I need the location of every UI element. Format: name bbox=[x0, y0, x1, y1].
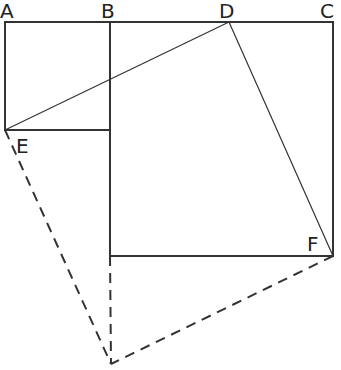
label-F: F bbox=[307, 232, 319, 256]
segment-DF bbox=[229, 22, 333, 256]
geometry-diagram: A B D C E F bbox=[0, 0, 341, 370]
segment-ED bbox=[5, 22, 229, 130]
label-D: D bbox=[219, 0, 234, 23]
small-square bbox=[5, 22, 110, 130]
large-square bbox=[110, 22, 333, 256]
dashed-segment-F-bottom bbox=[111, 256, 333, 364]
dashed-segment-vertical bbox=[110, 256, 111, 364]
label-E: E bbox=[16, 134, 29, 158]
label-B: B bbox=[101, 0, 115, 23]
label-A: A bbox=[0, 0, 14, 23]
label-C: C bbox=[320, 0, 334, 23]
dashed-segment-E-bottom bbox=[5, 130, 111, 364]
